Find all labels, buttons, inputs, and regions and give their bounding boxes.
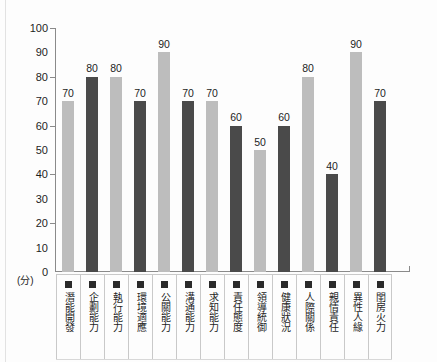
y-axis-tick-label: 40: [36, 169, 48, 180]
bar-value-label: 40: [320, 161, 344, 172]
y-axis-unit: (分): [17, 276, 34, 286]
filled-square-icon: [281, 281, 288, 288]
page-edge-line: [5, 0, 6, 362]
category-label-text: 執行能力: [111, 292, 122, 332]
category-label-cell: 親情責任: [320, 275, 344, 359]
filled-square-icon: [113, 281, 120, 288]
category-label-cell: 責任態度: [224, 275, 248, 359]
bar-value-label: 80: [80, 63, 104, 74]
y-axis-tick-label: 60: [36, 120, 48, 131]
bar-value-label: 70: [128, 88, 152, 99]
bar: [326, 174, 338, 272]
bar: [230, 126, 242, 272]
bar: [134, 101, 146, 272]
filled-square-icon: [257, 281, 264, 288]
category-label-cell: 領導統御: [248, 275, 272, 359]
bar: [62, 101, 74, 272]
filled-square-icon: [185, 281, 192, 288]
bar: [278, 126, 290, 272]
bar-slot: 70: [368, 28, 392, 272]
bar-value-label: 70: [176, 88, 200, 99]
category-label-cell: 環境適應: [128, 275, 152, 359]
category-label-cell: 公關能力: [152, 275, 176, 359]
y-axis-tick-label: 100: [30, 23, 48, 34]
bar: [158, 52, 170, 272]
bar-value-label: 80: [104, 63, 128, 74]
category-label-text: 親情責任: [327, 292, 338, 332]
filled-square-icon: [137, 281, 144, 288]
bar-value-label: 70: [56, 88, 80, 99]
bar: [86, 77, 98, 272]
y-axis-tick-label: 70: [36, 96, 48, 107]
bar: [110, 77, 122, 272]
filled-square-icon: [329, 281, 336, 288]
y-axis-tick-mark: [50, 174, 55, 175]
y-axis-tick-label: 30: [36, 193, 48, 204]
bar-slot: 50: [248, 28, 272, 272]
bar: [350, 52, 362, 272]
category-label-text: 閨房火力: [375, 292, 386, 332]
category-label-cell: 閨房火力: [368, 275, 392, 359]
category-label-text: 求知能力: [207, 292, 218, 332]
category-label-table: 潛能開發企劃能力執行能力環境適應公關能力溝通能力求知能力責任態度領導統御健康狀況…: [56, 274, 392, 360]
filled-square-icon: [377, 281, 384, 288]
bar: [302, 77, 314, 272]
bar: [182, 101, 194, 272]
y-axis-tick-mark: [50, 126, 55, 127]
category-label-text: 溝通能力: [183, 292, 194, 332]
bar-value-label: 90: [344, 39, 368, 50]
category-label-text: 責任態度: [231, 292, 242, 332]
bar-value-label: 70: [200, 88, 224, 99]
filled-square-icon: [161, 281, 168, 288]
bar-slot: 40: [320, 28, 344, 272]
category-label-cell: 溝通能力: [176, 275, 200, 359]
bar-slot: 90: [344, 28, 368, 272]
bar-slot: 80: [80, 28, 104, 272]
y-axis-tick-label: 20: [36, 218, 48, 229]
category-label-text: 健康狀況: [279, 292, 290, 332]
y-axis-tick-label: 0: [42, 267, 48, 278]
category-label-cell: 異性人緣: [344, 275, 368, 359]
category-label-cell: 執行能力: [104, 275, 128, 359]
filled-square-icon: [65, 281, 72, 288]
plot-area: 1009080706050403020100 70808070907070605…: [55, 28, 410, 272]
bar-chart: 1009080706050403020100 70808070907070605…: [0, 0, 437, 362]
category-label-text: 異性人緣: [351, 292, 362, 332]
filled-square-icon: [305, 281, 312, 288]
y-axis-tick-mark: [50, 77, 55, 78]
category-label-cell: 人際關係: [296, 275, 320, 359]
bar-value-label: 80: [296, 63, 320, 74]
filled-square-icon: [233, 281, 240, 288]
y-axis-tick-label: 50: [36, 145, 48, 156]
y-axis-tick-label: 90: [36, 47, 48, 58]
bar-slot: 90: [152, 28, 176, 272]
bar-value-label: 50: [248, 137, 272, 148]
category-label-text: 領導統御: [255, 292, 266, 332]
bar-slot: 80: [296, 28, 320, 272]
bar-slot: 60: [224, 28, 248, 272]
category-label-text: 人際關係: [303, 292, 314, 332]
category-label-text: 環境適應: [135, 292, 146, 332]
filled-square-icon: [353, 281, 360, 288]
bar: [374, 101, 386, 272]
bar-value-label: 70: [368, 88, 392, 99]
bar-slot: 70: [56, 28, 80, 272]
category-label-text: 潛能開發: [63, 292, 74, 332]
bar: [206, 101, 218, 272]
category-label-cell: 潛能開發: [56, 275, 80, 359]
category-label-cell: 求知能力: [200, 275, 224, 359]
filled-square-icon: [209, 281, 216, 288]
category-label-cell: 健康狀況: [272, 275, 296, 359]
bar-slot: 70: [176, 28, 200, 272]
category-label-text: 企劃能力: [87, 292, 98, 332]
y-axis-tick-mark: [50, 28, 55, 29]
y-axis-tick-label: 10: [36, 242, 48, 253]
bar-value-label: 60: [272, 112, 296, 123]
bar-slot: 70: [128, 28, 152, 272]
bar-slot: 70: [200, 28, 224, 272]
y-axis-tick-mark: [50, 223, 55, 224]
y-axis-tick-label: 80: [36, 71, 48, 82]
bar-value-label: 60: [224, 112, 248, 123]
bar-slot: 60: [272, 28, 296, 272]
bar-series: 7080807090707060506080409070: [56, 28, 410, 272]
